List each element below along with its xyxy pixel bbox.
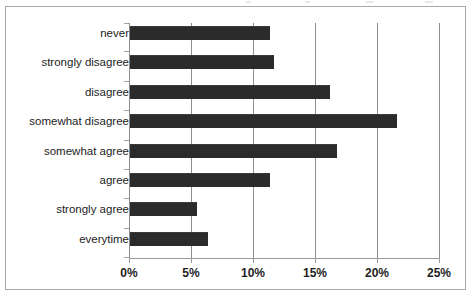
x-axis-tick-label: 15% (285, 266, 345, 280)
category-label-somewhat-agree: somewhat agree (0, 144, 129, 158)
y-tick-mark (124, 140, 129, 141)
x-axis-tick-label: 20% (347, 266, 407, 280)
gridline-20 (377, 23, 378, 259)
x-tick-mark (129, 258, 130, 263)
y-tick-mark (124, 257, 129, 258)
category-label-everytime: everytime (0, 232, 129, 246)
scan-speck (428, 1, 433, 3)
scan-speck (246, 1, 251, 3)
y-tick-mark (124, 169, 129, 170)
plot-area: 0%5%10%15%20%25%neverstrongly disagreedi… (6, 7, 467, 291)
bar-strongly-agree (130, 202, 197, 216)
x-axis-tick-label: 5% (161, 266, 221, 280)
y-tick-mark (124, 198, 129, 199)
category-label-disagree: disagree (0, 85, 129, 99)
bar-somewhat-agree (130, 144, 337, 158)
x-tick-mark (191, 258, 192, 263)
bar-never (130, 26, 270, 40)
bar-somewhat-disagree (130, 114, 397, 128)
x-axis-tick-label: 10% (223, 266, 283, 280)
category-label-strongly-disagree: strongly disagree (0, 55, 129, 69)
category-label-agree: agree (0, 173, 129, 187)
x-axis-tick-label: 0% (99, 266, 159, 280)
y-tick-mark (124, 81, 129, 82)
bar-strongly-disagree (130, 55, 274, 69)
y-tick-mark (124, 51, 129, 52)
x-tick-mark (315, 258, 316, 263)
bar-disagree (130, 85, 330, 99)
bar-agree (130, 173, 270, 187)
y-tick-mark (124, 228, 129, 229)
bar-everytime (130, 232, 208, 246)
scan-speck (369, 1, 374, 3)
chart-frame: 0%5%10%15%20%25%neverstrongly disagreedi… (5, 6, 466, 290)
category-label-somewhat-disagree: somewhat disagree (0, 114, 129, 128)
x-axis-tick-label: 25% (409, 266, 469, 280)
gridline-25 (439, 23, 440, 259)
scan-speck (305, 1, 310, 3)
category-label-strongly-agree: strongly agree (0, 202, 129, 216)
y-tick-mark (124, 23, 129, 24)
category-label-never: never (0, 26, 129, 40)
x-tick-mark (377, 258, 378, 263)
x-axis-baseline (129, 258, 440, 259)
y-tick-mark (124, 110, 129, 111)
x-tick-mark (439, 258, 440, 263)
x-tick-mark (253, 258, 254, 263)
gridline-15 (315, 23, 316, 259)
